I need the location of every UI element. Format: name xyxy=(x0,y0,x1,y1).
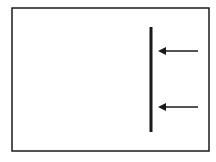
diagram-frame xyxy=(12,8,209,151)
arrowhead-icon xyxy=(158,103,166,111)
diagram-svg xyxy=(0,0,216,162)
arrowhead-icon xyxy=(158,47,166,55)
